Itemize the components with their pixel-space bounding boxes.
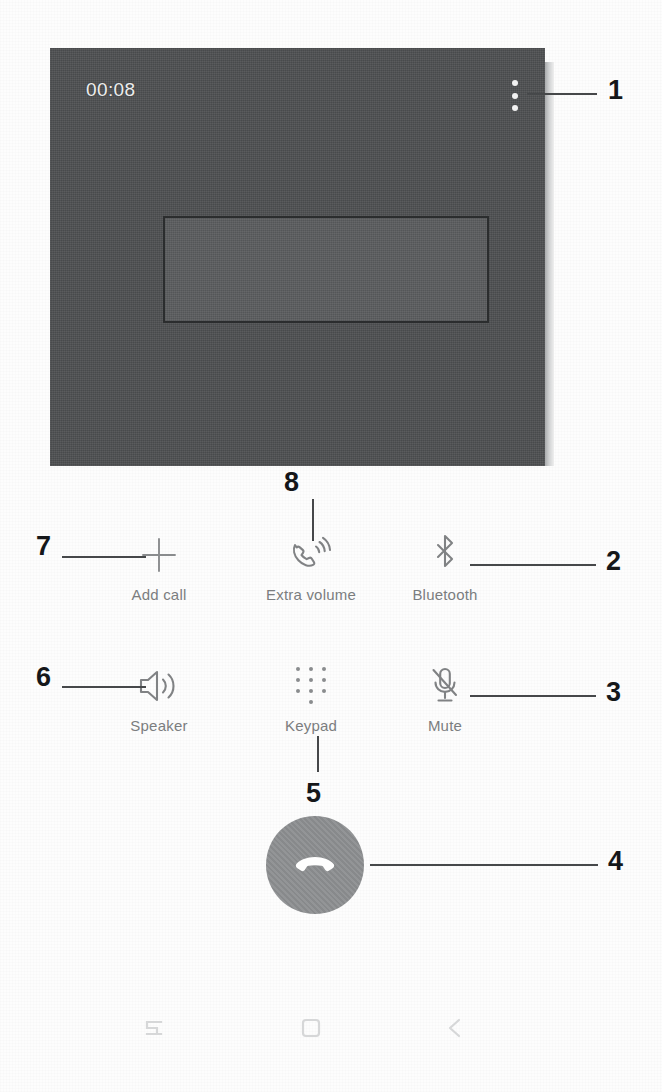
callout-number-1: 1 [608,75,623,106]
android-navigation-bar [0,1000,662,1060]
callout-leader-3 [470,695,596,697]
control-extra-volume[interactable]: Extra volume [236,529,386,603]
control-label-add-call: Add call [84,586,234,603]
control-mute[interactable]: Mute [370,660,520,734]
back-chevron-icon[interactable] [432,1008,478,1048]
home-square-icon[interactable] [288,1008,334,1048]
callout-leader-4 [370,864,598,866]
control-label-mute: Mute [370,717,520,734]
end-call-button[interactable] [266,816,364,914]
callout-number-6: 6 [36,662,51,693]
callout-number-7: 7 [36,531,51,562]
microphone-muted-icon [370,660,520,712]
end-call-handset-icon [287,837,343,893]
control-label-bluetooth: Bluetooth [370,586,520,603]
callout-number-3: 3 [606,677,621,708]
callout-number-4: 4 [608,846,623,877]
menu-dot [512,80,518,86]
callout-leader-7 [62,556,146,558]
more-vertical-icon[interactable] [511,80,518,111]
callout-leader-6 [62,686,146,688]
page-curl-edge [545,62,554,466]
control-speaker[interactable]: Speaker [84,660,234,734]
callout-leader-2 [470,564,596,566]
call-timer: 00:08 [86,79,136,101]
menu-dot [512,105,518,111]
callout-leader-8 [312,499,314,541]
control-label-extra-volume: Extra volume [236,586,386,603]
control-label-keypad: Keypad [236,717,386,734]
handset-volume-icon [236,529,386,581]
callout-number-2: 2 [606,546,621,577]
plus-icon [84,529,234,581]
callout-leader-1 [527,93,597,95]
redacted-contact-box [163,216,489,323]
callout-number-8: 8 [284,467,299,498]
control-label-speaker: Speaker [84,717,234,734]
callout-leader-5 [317,736,319,772]
recents-icon[interactable] [132,1008,178,1048]
control-keypad[interactable]: Keypad [236,660,386,734]
keypad-dots-icon [236,660,386,712]
bluetooth-icon [370,529,520,581]
control-add-call[interactable]: Add call [84,529,234,603]
callout-number-5: 5 [306,778,321,809]
phone-screenshot-panel: 00:08 [50,48,545,466]
control-bluetooth[interactable]: Bluetooth [370,529,520,603]
menu-dot [512,93,518,99]
